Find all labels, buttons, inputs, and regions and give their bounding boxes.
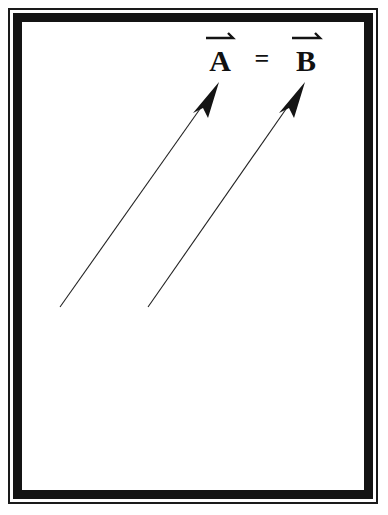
vector-bar-b-icon bbox=[292, 33, 320, 38]
equals-sign: = bbox=[255, 44, 270, 73]
vector-b-arrow bbox=[148, 82, 305, 307]
label-a: A bbox=[209, 44, 231, 77]
equation: A = B bbox=[206, 33, 320, 77]
label-b: B bbox=[296, 44, 316, 77]
vector-diagram: A = B bbox=[0, 0, 388, 515]
vector-bar-a-icon bbox=[206, 33, 233, 38]
vector-a-arrow bbox=[60, 82, 219, 307]
